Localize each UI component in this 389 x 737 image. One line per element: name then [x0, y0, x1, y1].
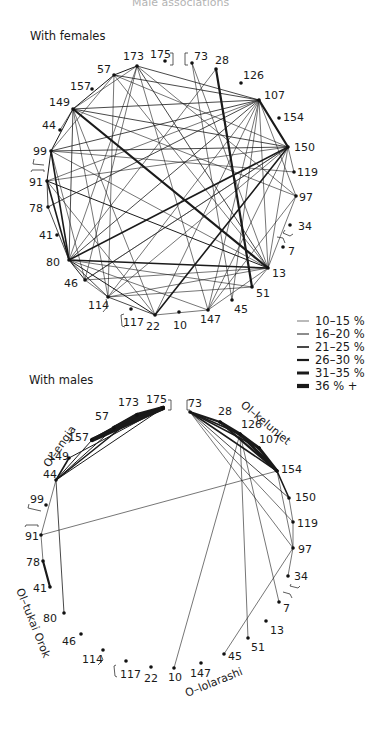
males-edge-107-154 [259, 448, 277, 471]
males-node-119: 119 [291, 517, 318, 530]
node-dot-icon [286, 574, 290, 578]
males-node-97: 97 [291, 543, 312, 556]
females-node-46: 46 [64, 277, 87, 290]
node-label: 175 [150, 48, 171, 61]
females-node-175: 175 [150, 48, 171, 63]
legend-item: 10–15 % [297, 314, 365, 328]
node-dot-icon [291, 520, 295, 524]
males-edge-154-97 [277, 471, 293, 548]
node-dot-icon [275, 469, 279, 473]
females-edge-57-107 [114, 75, 259, 100]
males-edge-91-78 [41, 535, 43, 561]
males-node-114: 114 [82, 648, 105, 666]
node-label: 73 [194, 50, 208, 63]
node-label: 41 [39, 229, 53, 242]
males-node-34: 34 [286, 570, 308, 583]
node-label: 114 [88, 299, 109, 312]
males-edge-44-91 [41, 480, 56, 535]
females-edge-99-91 [47, 151, 51, 181]
females-node-150: 150 [286, 141, 315, 154]
males-node-91: 91 [25, 530, 43, 543]
page-title: Male associations [132, 0, 229, 9]
node-label: 114 [82, 653, 103, 666]
females-node-45: 45 [230, 298, 248, 316]
females-edge-99-13 [51, 151, 268, 268]
females-node-117: 117 [123, 307, 144, 329]
legend-label: 21–25 % [315, 340, 365, 354]
females-node-154: 154 [277, 111, 304, 124]
node-label: 173 [118, 396, 139, 409]
node-dot-icon [291, 546, 295, 550]
females-edge-173-97 [137, 66, 296, 196]
females-node-157: 157 [70, 80, 94, 93]
node-dot-icon [112, 426, 116, 430]
females-edge-46-13 [85, 268, 268, 280]
node-label: 44 [42, 119, 56, 132]
node-dot-icon [41, 559, 45, 563]
node-label: 119 [297, 166, 318, 179]
node-dot-icon [161, 406, 165, 410]
node-dot-icon [44, 503, 48, 507]
females-node-44: 44 [42, 119, 62, 132]
node-label: 44 [43, 468, 57, 481]
node-dot-icon [230, 298, 234, 302]
females-node-51: 51 [250, 285, 270, 300]
node-label: 46 [64, 277, 78, 290]
legend: 10–15 %16–20 %21–25 %26–30 %31–35 %36 % … [297, 314, 365, 393]
node-dot-icon [281, 245, 285, 249]
node-label: 51 [256, 287, 270, 300]
females-edge-99-119 [51, 151, 294, 172]
bracket-73 [185, 53, 188, 65]
node-label: 22 [144, 672, 158, 685]
females-graph: With females 173175732812610715415011997… [29, 29, 318, 333]
females-node-107: 107 [257, 89, 285, 102]
node-dot-icon [129, 307, 133, 311]
node-label: 150 [295, 491, 316, 504]
females-node-34: 34 [288, 220, 312, 233]
bracket-117-m [114, 665, 117, 677]
node-dot-icon [218, 420, 222, 424]
males-node-99: 99 [30, 493, 48, 507]
node-label: 57 [97, 63, 111, 76]
node-label: 91 [25, 530, 39, 543]
males-node-73: 73 [188, 397, 202, 414]
node-label: 51 [251, 641, 265, 654]
node-label: 7 [283, 602, 290, 615]
bracket-99 [33, 159, 44, 165]
node-dot-icon [46, 205, 50, 209]
legend-label: 10–15 % [315, 314, 365, 328]
node-dot-icon [264, 619, 268, 623]
node-label: 28 [215, 54, 229, 67]
females-edge-149-80 [69, 109, 73, 260]
females-edge-57-150 [114, 75, 288, 147]
node-label: 157 [70, 80, 91, 93]
males-node-28: 28 [218, 405, 232, 424]
males-graph-edges [41, 408, 293, 668]
females-edge-107-13 [259, 100, 268, 268]
node-dot-icon [112, 73, 116, 77]
node-label: 34 [294, 570, 308, 583]
node-dot-icon [83, 278, 87, 282]
females-edge-150-114 [108, 147, 288, 297]
node-dot-icon [277, 116, 281, 120]
females-node-57: 57 [97, 63, 116, 77]
node-dot-icon [287, 496, 291, 500]
males-node-10: 10 [168, 666, 182, 684]
females-node-41: 41 [39, 229, 59, 242]
females-edge-149-22 [73, 109, 155, 315]
node-label: 147 [200, 313, 221, 326]
females-node-73: 73 [190, 50, 208, 65]
node-dot-icon [246, 636, 250, 640]
females-node-7: 7 [281, 245, 295, 258]
node-dot-icon [135, 64, 139, 68]
node-dot-icon [206, 308, 210, 312]
legend-label: 26–30 % [315, 353, 365, 367]
node-dot-icon [149, 665, 153, 669]
node-label: 107 [264, 89, 285, 102]
females-node-126: 126 [239, 69, 264, 85]
females-edge-150-80 [69, 147, 288, 260]
bracket-7-m [283, 592, 292, 598]
node-label: 117 [123, 316, 144, 329]
males-node-150: 150 [287, 491, 316, 504]
node-dot-icon [48, 585, 52, 589]
